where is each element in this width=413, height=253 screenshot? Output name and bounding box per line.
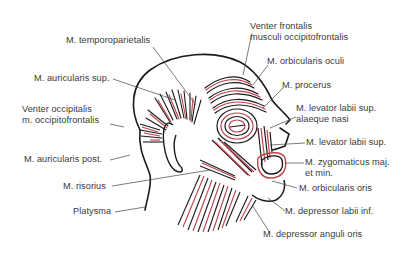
label-venter-occipitalis-line2: m. occipitofrontalis [22,115,99,126]
label-venter-occipitalis-line1: Venter occipitalis [22,104,99,115]
label-orbicularis-oris: M. orbicularis oris [299,183,372,194]
label-levator-alaeque-line1: M. levator labii sup. [296,103,376,114]
label-venter-frontalis: Venter frontalis musculi occipitofrontal… [250,21,348,42]
label-levator-alaeque-line2: alaeque nasi [296,114,376,125]
muscle-fibres-neck-platysma [178,175,256,232]
label-procerus: M. procerus [282,80,331,91]
label-depressor-anguli-oris: M. depressor anguli oris [263,229,362,240]
label-platysma: Platysma [73,206,111,217]
label-auricularis-post: M. auricularis post. [24,154,102,165]
muscle-fibres-frontal [205,77,266,113]
orbicularis-oris-lips [258,153,286,178]
label-zygomaticus-line2: et min. [305,168,390,179]
label-temporoparietalis: M. temporoparietalis [66,35,150,46]
label-venter-frontalis-line1: Venter frontalis [250,21,348,32]
label-orbicularis-oculi: M. orbicularis oculi [267,56,344,67]
label-zygomaticus: M. zygomaticus maj. et min. [305,157,390,178]
orbicularis-oculi-rings [217,109,257,143]
label-depressor-labii-inf: M. depressor labii inf. [285,206,373,217]
label-zygomaticus-line1: M. zygomaticus maj. [305,157,390,168]
label-venter-occipitalis: Venter occipitalis m. occipitofrontalis [22,104,99,125]
muscle-fibres-risorius [200,160,236,180]
label-levator-labii-sup: M. levator labii sup. [306,137,386,148]
label-levator-labii-alaeque: M. levator labii sup. alaeque nasi [296,103,376,124]
label-venter-frontalis-line2: musculi occipitofrontalis [250,32,348,43]
muscle-fibres-temporal [146,90,201,130]
label-auricularis-sup: M. auricularis sup. [34,73,110,84]
label-risorius: M. risorius [63,181,106,192]
